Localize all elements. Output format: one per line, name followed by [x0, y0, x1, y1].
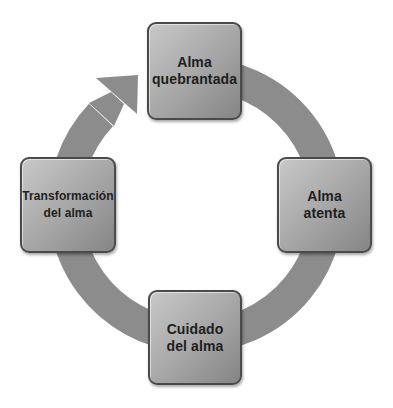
node-label: Cuidado del alma	[167, 321, 224, 355]
node-label: Alma quebrantada	[152, 54, 237, 88]
node-label: Alma atenta	[304, 188, 346, 222]
node-alma-atenta: Alma atenta	[277, 157, 372, 253]
node-cuidado-del-alma: Cuidado del alma	[148, 290, 242, 385]
node-label: Transformación del alma	[22, 188, 113, 222]
node-transformacion-del-alma: Transformación del alma	[20, 157, 116, 253]
node-alma-quebrantada: Alma quebrantada	[147, 22, 242, 120]
